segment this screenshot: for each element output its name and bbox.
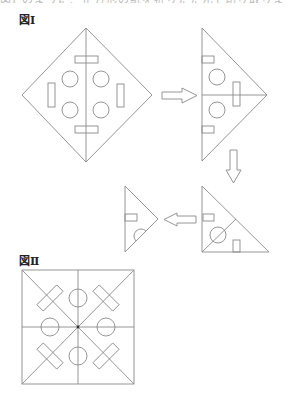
rectangle-cutout [75,126,98,133]
outline-shape [22,28,152,162]
rectangle-cutout [125,214,137,221]
figure-2-unfolded-square [22,270,134,384]
rectangle-cutout [117,84,124,107]
step-arrows [162,88,241,226]
circle-cutout [93,102,109,118]
folding-diagram [0,0,287,401]
semicircle-cutout [134,229,146,241]
circle-cutout [62,71,78,87]
center-point [77,326,80,329]
rectangle-cutout [233,240,240,252]
arrow-right-icon [162,88,197,103]
outline-shape [202,28,267,161]
circle-cutout [209,69,225,85]
fold-line [202,219,236,252]
half-folded-triangle [202,28,267,161]
eighth-folded-triangle [125,186,158,252]
quarter-folded-triangle [202,186,269,252]
circle-cutout [93,71,109,87]
circle-cutout [210,227,226,243]
circle-cutout [209,102,225,118]
unfolded-square-diamond [22,28,152,162]
circle-cutout [62,102,78,118]
arrow-left-icon [164,213,196,226]
arrow-down-icon [226,150,241,183]
rectangle-cutout [233,82,240,106]
rectangle-cutout [48,83,55,107]
rectangle-cutout [202,56,214,63]
rectangle-cutout [203,214,214,221]
outline-shape [125,186,158,252]
rectangle-cutout [202,126,214,133]
rectangle-cutout [75,56,98,63]
